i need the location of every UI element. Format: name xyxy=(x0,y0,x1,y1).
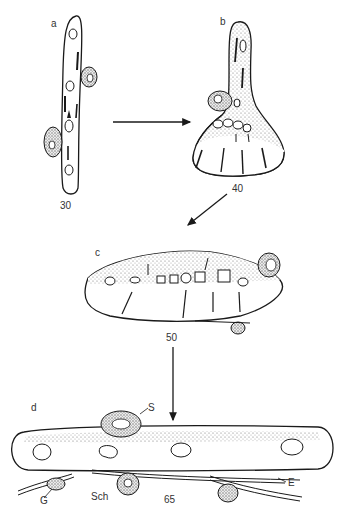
stage-label-50: 50 xyxy=(166,333,177,343)
developmental-sequence-figure: a 30 b 40 c 50 d 65 S G Sch E xyxy=(0,0,349,513)
panel-label-a: a xyxy=(51,19,57,29)
annotation-s-satellite: S xyxy=(148,403,155,413)
panel-a-cell xyxy=(44,16,97,194)
stage-label-40: 40 xyxy=(232,184,243,194)
panel-label-c: c xyxy=(95,248,100,258)
annotation-e: E xyxy=(288,478,295,488)
panel-c-cell xyxy=(85,251,282,334)
arrow-b-to-c xyxy=(188,194,227,225)
stage-label-65: 65 xyxy=(164,495,175,505)
panel-label-d: d xyxy=(31,403,37,413)
annotation-g: G xyxy=(40,496,48,506)
stage-label-30: 30 xyxy=(60,201,71,211)
figure-drawing xyxy=(0,0,349,513)
panel-b-cell xyxy=(193,22,284,176)
panel-d-cell xyxy=(12,408,333,502)
annotation-sch: Sch xyxy=(91,492,108,502)
panel-label-b: b xyxy=(220,17,226,27)
